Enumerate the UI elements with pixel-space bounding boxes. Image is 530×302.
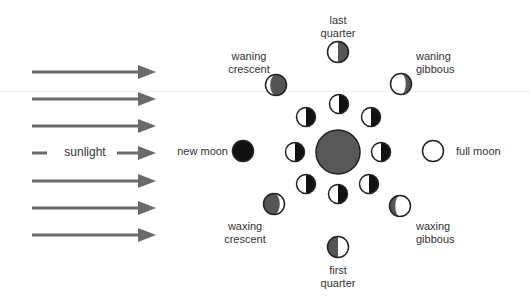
earth-icon [316, 130, 360, 174]
sunlight-label: sunlight [55, 146, 115, 159]
waxing-crescent-label-line1: waxing [210, 220, 280, 233]
full-moon-label: full moon [456, 145, 526, 158]
waxing-crescent-label: waxing crescent [210, 220, 280, 246]
waning-gibbous-label: waning gibbous [416, 50, 486, 76]
waxing-gibbous-label-line1: waxing [416, 220, 486, 233]
waxing-gibbous-label: waxing gibbous [416, 220, 486, 246]
arrow-head-icon [138, 201, 156, 215]
orbit-moon-shadow [381, 143, 391, 162]
orbit-moon-shadow [295, 143, 305, 162]
first-quarter-label-line1: first [308, 264, 368, 277]
waning-gibbous-label-line2: gibbous [416, 63, 486, 76]
arrow-head-icon [138, 65, 156, 79]
last-quarter-label-line2: quarter [308, 27, 368, 40]
last-quarter-label-line1: last [308, 14, 368, 27]
moon-shadow [338, 42, 349, 63]
waning-crescent-label-line1: waning [214, 50, 284, 63]
orbit-moon-shadow [306, 175, 316, 194]
waxing-crescent-label-line2: crescent [210, 233, 280, 246]
orbit-moon-shadow [339, 95, 349, 114]
moon-shadow [328, 237, 339, 258]
orbit-moon-shadow [369, 175, 379, 194]
waning-crescent-label: waning crescent [214, 50, 284, 76]
orbit-moon-shadow [371, 108, 381, 127]
waning-gibbous-label-line1: waning [416, 50, 486, 63]
last-quarter-label: last quarter [308, 14, 368, 40]
moon-phases-diagram: sunlight new moon full moon last quarter… [0, 0, 530, 302]
first-quarter-label: first quarter [308, 264, 368, 290]
waxing-gibbous-label-line2: gibbous [416, 233, 486, 246]
orbit-moon-shadow [338, 185, 348, 204]
arrow-head-icon [138, 119, 156, 133]
arrow-head-icon [138, 228, 156, 242]
arrow-head-icon [138, 92, 156, 106]
waning-crescent-label-line2: crescent [214, 63, 284, 76]
orbit-moon-shadow [306, 108, 316, 127]
arrow-head-icon [138, 174, 156, 188]
first-quarter-label-line2: quarter [308, 277, 368, 290]
arrow-head-icon [138, 146, 156, 160]
new-moon-label: new moon [160, 145, 228, 158]
